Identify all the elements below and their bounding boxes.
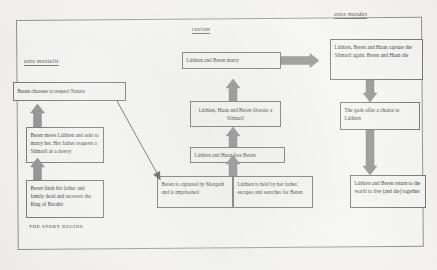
diagram-page: unio mentalis caelum unus mundus Beren c…: [0, 0, 437, 270]
arrow-marry-to-capture-again: [281, 54, 319, 68]
arrow-liberate-silmaril-to-marry: [226, 79, 240, 101]
arrow-gods-choice-to-return-world: [363, 130, 377, 175]
arrow-free-beren-to-liberate-silmaril: [226, 127, 240, 147]
arrow-respect-nature-to-beren-captured: [117, 101, 161, 181]
arrow-capture-again-to-gods-choice: [363, 80, 377, 102]
arrow-finds-father-to-meets-luthien: [31, 158, 45, 180]
arrow-layer: [0, 0, 437, 270]
arrow-luthien-held-to-free-beren: [226, 155, 240, 176]
arrow-meets-luthien-to-respect-nature: [31, 104, 45, 127]
